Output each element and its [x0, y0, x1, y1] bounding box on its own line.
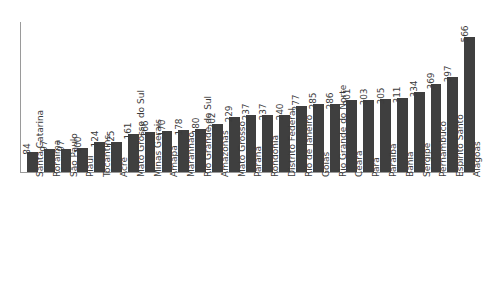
- category-tick: Maranhão: [175, 175, 192, 281]
- category-label: Piauí: [86, 156, 95, 177]
- category-label: Paraíba: [389, 144, 398, 177]
- category-tick: Rio Grande do Norte: [327, 175, 344, 281]
- category-label: Alagoas: [473, 141, 482, 177]
- category-tick: Rondônia: [259, 175, 276, 281]
- category-tick: Amapá: [159, 175, 176, 281]
- category-tick: Paraná: [243, 175, 260, 281]
- category-label: Santa Catarina: [36, 110, 45, 177]
- category-tick: Distrito Federal: [276, 175, 293, 281]
- bar-group: 303: [360, 14, 377, 172]
- category-label: Espírito Santo: [456, 114, 465, 177]
- category-label: Minas Gerais: [154, 119, 163, 177]
- category-label: Goiás: [322, 152, 331, 177]
- category-tick: Paraíba: [377, 175, 394, 281]
- category-tick: São Paulo: [58, 175, 75, 281]
- category-tick: Alagoas: [461, 175, 478, 281]
- category-label: Acre: [120, 157, 129, 177]
- bar-chart: 8497971001241251611661701781802022292372…: [0, 0, 500, 283]
- category-label: Pernambuco: [439, 121, 448, 177]
- category-tick: Pará: [360, 175, 377, 281]
- category-tick: Bahia: [394, 175, 411, 281]
- category-tick: Roraima: [41, 175, 58, 281]
- category-tick: Tocantins: [91, 175, 108, 281]
- category-label: Roraima: [53, 140, 62, 177]
- category-label: São Paulo: [70, 133, 79, 177]
- category-label: Distrito Federal: [288, 108, 297, 177]
- category-label: Ceará: [355, 150, 364, 177]
- category-tick: Piauí: [74, 175, 91, 281]
- category-tick: Ceará: [343, 175, 360, 281]
- y-axis-line: [20, 22, 21, 173]
- category-tick: Mato Grosso: [226, 175, 243, 281]
- category-label: Amazonas: [221, 130, 230, 177]
- category-tick: Rio de Janeiro: [293, 175, 310, 281]
- category-tick: Acre: [108, 175, 125, 281]
- category-label: Amapá: [170, 145, 179, 177]
- category-label: Rio Grande do Norte: [339, 85, 348, 177]
- category-tick: Minas Gerais: [142, 175, 159, 281]
- category-label: Rondônia: [271, 135, 280, 177]
- category-tick: Espírito Santo: [444, 175, 461, 281]
- category-tick: Santa Catarina: [24, 175, 41, 281]
- category-label: Maranhão: [187, 132, 196, 177]
- category-label: Sergipe: [423, 143, 432, 177]
- category-tick: Goiás: [310, 175, 327, 281]
- category-axis: Santa CatarinaRoraimaSão PauloPiauíTocan…: [24, 175, 478, 281]
- category-tick: Pernambuco: [428, 175, 445, 281]
- category-label: Rio de Janeiro: [305, 115, 314, 177]
- category-label: Mato Grosso do Sul: [137, 90, 146, 177]
- category-label: Paraná: [254, 146, 263, 177]
- category-label: Tocantins: [103, 135, 112, 177]
- plot-area: 8497971001241251611661701781802022292372…: [24, 14, 478, 172]
- category-label: Mato Grosso: [238, 121, 247, 177]
- category-tick: Amazonas: [209, 175, 226, 281]
- category-tick: Rio Grande do Sul: [192, 175, 209, 281]
- category-tick: Mato Grosso do Sul: [125, 175, 142, 281]
- category-label: Bahia: [406, 152, 415, 177]
- category-label: Rio Grande do Sul: [204, 96, 213, 177]
- category-tick: Sergipe: [411, 175, 428, 281]
